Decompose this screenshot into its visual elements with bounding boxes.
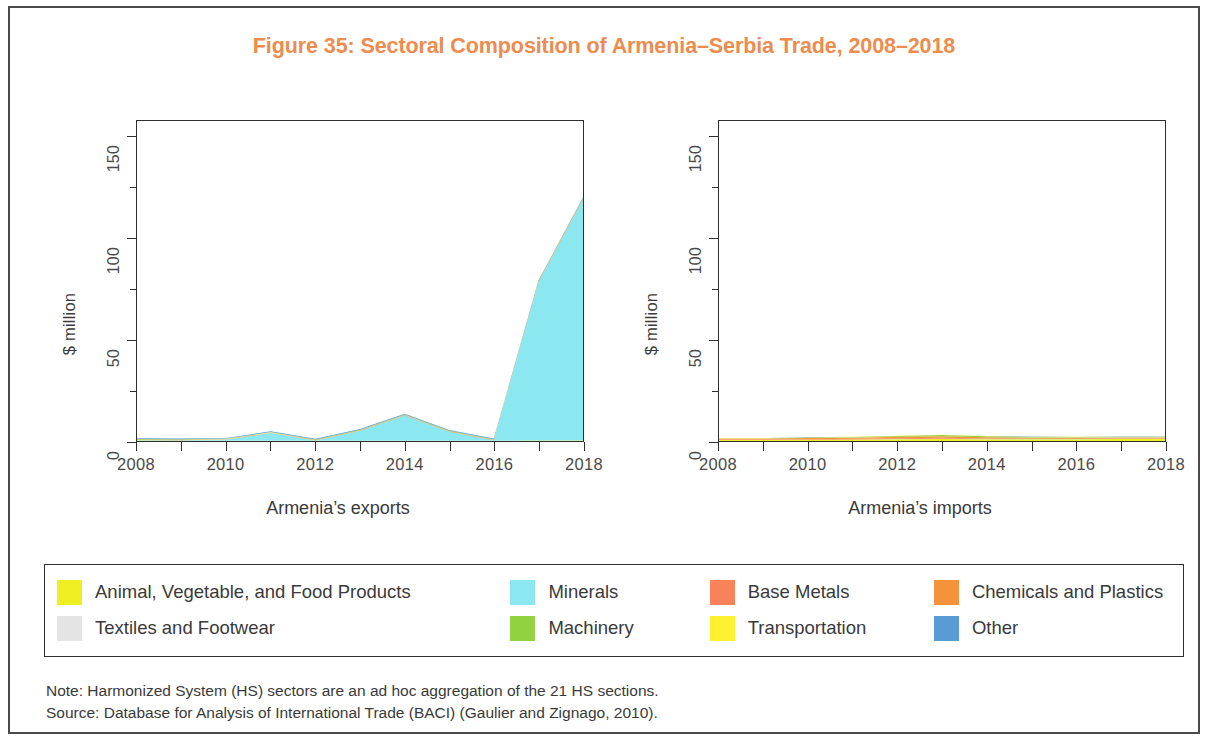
x-axis-exports: 200820102012201420162018 <box>136 442 584 488</box>
chart-legend: Animal, Vegetable, and Food ProductsMine… <box>44 564 1184 657</box>
x-tick-2009 <box>763 442 764 451</box>
figure-frame: Figure 35: Sectoral Composition of Armen… <box>8 6 1200 734</box>
panel-imports: $ million 050100150 20082010201220142016… <box>640 104 1200 544</box>
y-tick-label-100: 100 <box>687 247 705 274</box>
y-tick-label-150: 150 <box>687 145 705 172</box>
x-tick-label-2016: 2016 <box>475 455 513 474</box>
legend-label-food: Animal, Vegetable, and Food Products <box>95 581 411 603</box>
y-tick-label-100: 100 <box>105 247 123 274</box>
legend-row: Textiles and FootwearMachineryTransporta… <box>45 610 1183 646</box>
x-tick-2013 <box>360 442 361 451</box>
legend-item-minerals[interactable]: Minerals <box>510 574 709 610</box>
y-tick-label-150: 150 <box>105 145 123 172</box>
area-series-minerals <box>137 200 583 441</box>
x-tick-label-2008: 2008 <box>117 455 155 474</box>
x-tick-2012 <box>315 442 316 451</box>
x-tick-2014 <box>987 442 988 451</box>
x-tick-2015 <box>450 442 451 451</box>
x-tick-label-2018: 2018 <box>565 455 603 474</box>
legend-item-machinery[interactable]: Machinery <box>510 610 709 646</box>
x-tick-label-2014: 2014 <box>386 455 424 474</box>
x-tick-2011 <box>852 442 853 451</box>
x-axis-imports: 200820102012201420162018 <box>718 442 1166 488</box>
x-tick-label-2010: 2010 <box>207 455 245 474</box>
x-tick-2018 <box>584 442 585 451</box>
legend-item-textiles[interactable]: Textiles and Footwear <box>45 610 510 646</box>
legend-item-base_metals[interactable]: Base Metals <box>710 574 934 610</box>
area-chart-imports <box>719 121 1165 441</box>
area-chart-exports <box>137 121 583 441</box>
y-tick-0 <box>127 442 136 443</box>
legend-swatch-textiles <box>57 616 82 641</box>
legend-item-other[interactable]: Other <box>934 610 1183 646</box>
legend-swatch-other <box>934 616 959 641</box>
legend-item-food[interactable]: Animal, Vegetable, and Food Products <box>45 574 510 610</box>
figure-title: Figure 35: Sectoral Composition of Armen… <box>10 34 1198 59</box>
y-tick-label-50: 50 <box>105 349 123 367</box>
x-tick-2009 <box>181 442 182 451</box>
x-tick-label-2010: 2010 <box>789 455 827 474</box>
panel-exports: $ million 050100150 20082010201220142016… <box>58 104 618 544</box>
x-tick-2016 <box>1076 442 1077 451</box>
x-tick-2014 <box>405 442 406 451</box>
x-tick-2011 <box>270 442 271 451</box>
y-tick-150 <box>127 136 136 137</box>
legend-swatch-minerals <box>510 580 535 605</box>
footnotes: Note: Harmonized System (HS) sectors are… <box>46 680 1176 724</box>
y-tick-50 <box>127 340 136 341</box>
x-tick-2018 <box>1166 442 1167 451</box>
y-axis-imports: 050100150 <box>692 120 718 442</box>
footnote-note: Note: Harmonized System (HS) sectors are… <box>46 680 1176 702</box>
x-tick-2016 <box>494 442 495 451</box>
panel-caption-imports: Armenia’s imports <box>640 498 1200 519</box>
y-axis-exports: 050100150 <box>110 120 136 442</box>
x-tick-label-2014: 2014 <box>968 455 1006 474</box>
legend-swatch-food <box>57 580 82 605</box>
legend-label-chemicals: Chemicals and Plastics <box>972 581 1163 603</box>
x-tick-2008 <box>718 442 719 451</box>
x-tick-2010 <box>226 442 227 451</box>
y-tick-50 <box>709 340 718 341</box>
x-tick-label-2018: 2018 <box>1147 455 1185 474</box>
x-tick-label-2012: 2012 <box>296 455 334 474</box>
legend-row: Animal, Vegetable, and Food ProductsMine… <box>45 574 1183 610</box>
legend-swatch-base_metals <box>710 580 735 605</box>
x-tick-2013 <box>942 442 943 451</box>
x-tick-2008 <box>136 442 137 451</box>
legend-label-minerals: Minerals <box>548 581 618 603</box>
y-tick-0 <box>709 442 718 443</box>
x-tick-2017 <box>1121 442 1122 451</box>
legend-label-other: Other <box>972 617 1018 639</box>
y-axis-title-exports: $ million <box>60 293 79 355</box>
legend-item-chemicals[interactable]: Chemicals and Plastics <box>934 574 1183 610</box>
y-axis-title-imports: $ million <box>642 293 661 355</box>
x-tick-2012 <box>897 442 898 451</box>
y-tick-label-50: 50 <box>687 349 705 367</box>
x-tick-2017 <box>539 442 540 451</box>
legend-item-transportation[interactable]: Transportation <box>710 610 934 646</box>
x-tick-label-2012: 2012 <box>878 455 916 474</box>
x-tick-label-2016: 2016 <box>1057 455 1095 474</box>
footnote-source: Source: Database for Analysis of Interna… <box>46 702 1176 724</box>
legend-swatch-chemicals <box>934 580 959 605</box>
panel-caption-exports: Armenia’s exports <box>58 498 618 519</box>
x-tick-2015 <box>1032 442 1033 451</box>
plot-area-exports <box>136 120 584 442</box>
legend-swatch-transportation <box>710 616 735 641</box>
y-tick-100 <box>709 238 718 239</box>
plot-area-imports <box>718 120 1166 442</box>
legend-label-machinery: Machinery <box>548 617 633 639</box>
legend-label-base_metals: Base Metals <box>748 581 850 603</box>
x-tick-label-2008: 2008 <box>699 455 737 474</box>
x-tick-2010 <box>808 442 809 451</box>
legend-label-textiles: Textiles and Footwear <box>95 617 275 639</box>
y-tick-150 <box>709 136 718 137</box>
legend-label-transportation: Transportation <box>748 617 867 639</box>
legend-swatch-machinery <box>510 616 535 641</box>
y-tick-100 <box>127 238 136 239</box>
